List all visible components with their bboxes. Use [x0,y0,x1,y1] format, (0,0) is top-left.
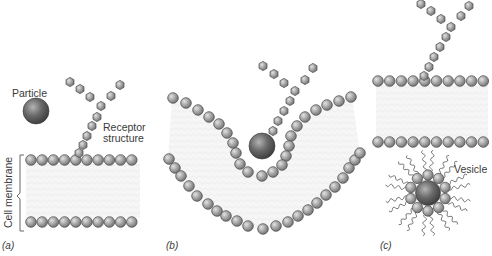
lipid-head [433,173,443,183]
lipid-head [396,76,407,87]
receptor-sugar-unit [79,140,87,149]
lipid-head [48,217,59,228]
vesicle-particle [416,181,441,206]
lipid-head [258,224,269,235]
receptor-sugar-unit [420,71,428,80]
lipid-head [478,137,489,148]
lipid-head [26,217,37,228]
cell-membrane-label: Cell membrane [2,157,14,228]
lipid-head [478,76,489,87]
lipid-head [71,217,82,228]
lipid-head [433,202,443,212]
lipid-head [373,137,384,148]
lipid-head [431,137,442,148]
lipid-head [338,173,349,184]
lipid-head [455,137,466,148]
receptor-sugar-unit [425,62,433,71]
lipid-tail [449,183,471,190]
receptor-structure-c [417,0,473,81]
membrane-interior-curved [168,97,360,230]
lipid-head [127,217,138,228]
lipid-head [214,119,225,130]
receptor-label-line2: structure [103,132,144,144]
lipid-head [408,76,419,87]
lipid-head [406,193,416,203]
lipid-tail [389,175,409,184]
lipid-head [168,93,179,104]
lipid-head [292,121,303,132]
lipid-head [181,98,192,109]
receptor-sugar-unit [457,11,465,20]
lipid-head [257,171,268,182]
receptor-sugar-unit [417,0,425,9]
lipid-head [408,137,419,148]
lipid-head [59,155,70,166]
receptor-sugar-unit [86,92,94,101]
lipid-head [204,112,215,123]
lipid-head [184,181,195,192]
lipid-tail [399,208,414,224]
lipid-head [26,155,37,166]
lipid-head [286,131,297,142]
membrane-interior [26,164,140,218]
lipid-head [192,191,203,202]
lipid-head [440,193,450,203]
lipid-tail [430,150,435,172]
lipid-head [203,199,214,210]
receptor-sugar-unit [280,106,288,115]
lipid-tail [438,155,449,174]
lipid-head [466,76,477,87]
panel-c-label: (c) [380,240,392,251]
lipid-tail [447,202,467,211]
lipid-head [334,96,345,107]
receptor-sugar-unit [269,126,277,135]
lipid-tail [421,150,426,172]
panel-b: (b) [164,61,366,251]
lipid-head [412,202,422,212]
particle-label: Particle [12,87,47,99]
lipid-head [283,217,294,228]
lipid-head [440,182,450,192]
lipid-head [406,182,416,192]
lipid-head [321,190,332,201]
receptor-sugar-unit [291,86,299,95]
receptor-sugar-unit [66,77,74,86]
lipid-head [423,206,433,216]
receptor-sugar-unit [427,6,435,15]
lipid-head [82,217,93,228]
receptor-sugar-unit [75,148,83,157]
lipid-head [300,112,311,123]
lipid-head [312,198,323,209]
particle [23,98,49,124]
lipid-head [222,128,233,139]
lipid-head [396,137,407,148]
receptor-sugar-unit [83,131,91,140]
receptor-sugar-unit [301,75,309,84]
lipid-tail [438,211,450,230]
lipid-head [420,137,431,148]
lipid-tail [407,155,419,174]
membrane-outer-leaflet-c [373,76,489,87]
receptor-sugar-unit [97,101,105,110]
lipid-head [277,160,288,171]
lipid-tail [447,174,467,185]
lipid-head [268,167,279,178]
lipid-head [82,155,93,166]
receptor-sugar-unit [76,84,84,93]
lipid-head [93,217,104,228]
lipid-head [221,211,232,222]
lipid-head [164,154,175,165]
lipid-tail [442,208,457,224]
lipid-head [243,221,254,232]
membrane-inner-leaflet [26,217,137,228]
receptor-sugar-unit [259,61,267,70]
receptor-sugar-unit [274,116,282,125]
membrane-interior-c [376,85,488,139]
panel-a: Cell membrane Particle Receptor structur… [2,77,146,251]
lipid-tail [389,201,409,212]
lipid-head [423,170,433,180]
receptor-sugar-unit [442,32,450,41]
receptor-sugar-unit [280,78,288,87]
lipid-head [243,167,254,178]
lipid-tail [386,196,408,203]
